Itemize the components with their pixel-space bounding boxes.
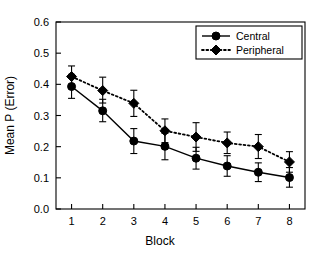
data-point-peripheral [284, 157, 294, 167]
y-axis-tick-label: 0.0 [34, 203, 49, 215]
data-point-peripheral [253, 142, 263, 152]
x-axis-tick-label: 6 [224, 215, 230, 227]
data-point-peripheral [98, 86, 108, 96]
x-axis-title: Block [145, 234, 175, 248]
x-axis-tick-label: 2 [100, 215, 106, 227]
x-axis-tick-label: 5 [193, 215, 199, 227]
x-axis-tick-label: 8 [286, 215, 292, 227]
data-point-central [192, 154, 200, 162]
data-point-central [285, 174, 293, 182]
data-point-central [161, 142, 169, 150]
data-point-central [223, 162, 231, 170]
x-axis-tick-label: 4 [162, 215, 168, 227]
legend-label-peripheral: Peripheral [236, 44, 284, 56]
data-point-central [254, 168, 262, 176]
x-axis-tick-label: 7 [255, 215, 261, 227]
data-point-peripheral [67, 72, 77, 82]
y-axis-title: Mean P (Error) [3, 76, 17, 155]
data-point-peripheral [160, 126, 170, 136]
y-axis-tick-label: 0.2 [34, 141, 49, 153]
data-point-peripheral [191, 132, 201, 142]
x-axis-tick-label: 1 [69, 215, 75, 227]
legend-marker-central [212, 32, 220, 40]
x-axis-tick-label: 3 [131, 215, 137, 227]
series-line-central [72, 87, 290, 178]
line-chart: 0.00.10.20.30.40.50.612345678BlockMean P… [0, 0, 320, 269]
legend-label-central: Central [236, 30, 270, 42]
data-point-peripheral [222, 138, 232, 148]
y-axis-tick-label: 0.4 [34, 78, 49, 90]
chart-figure: 0.00.10.20.30.40.50.612345678BlockMean P… [0, 0, 320, 269]
data-point-central [99, 107, 107, 115]
y-axis-tick-label: 0.6 [34, 16, 49, 28]
y-axis-tick-label: 0.5 [34, 47, 49, 59]
data-point-central [130, 137, 138, 145]
y-axis-tick-label: 0.1 [34, 172, 49, 184]
y-axis-tick-label: 0.3 [34, 110, 49, 122]
